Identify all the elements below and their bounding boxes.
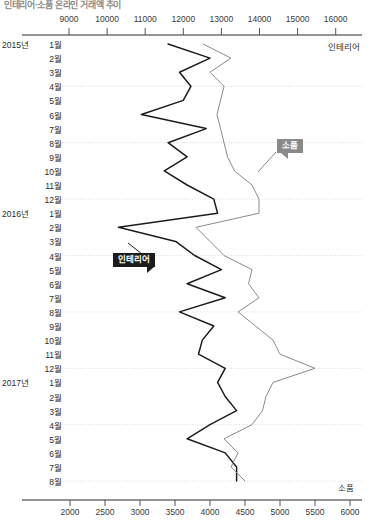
callout-goods: 소품 <box>277 139 303 153</box>
callout-tail <box>281 153 288 159</box>
callout-leader-goods <box>258 152 276 172</box>
chart-container: 인테리어·소품 온라인 거래액 추이 900010000110001200013… <box>0 0 373 530</box>
callout-interior: 인테리어 <box>113 253 155 267</box>
callout-tail <box>147 267 154 273</box>
plot-area <box>0 0 373 530</box>
series-line-goods <box>196 44 315 481</box>
